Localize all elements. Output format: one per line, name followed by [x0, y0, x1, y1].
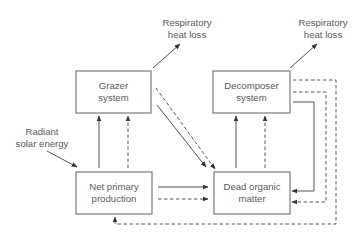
arrow-grazer-to-dom-dashed — [156, 88, 215, 169]
grazer-system-box: Grazer system — [76, 71, 151, 113]
box-label: system — [236, 92, 266, 103]
box-label: system — [98, 92, 128, 103]
label-line: Respiratory — [298, 17, 347, 28]
arrow-decomposer-to-dom-dashed — [292, 92, 326, 202]
energy-flow-diagram: Respiratory heat loss Respiratory heat l… — [0, 0, 359, 239]
label-line: heat loss — [168, 29, 207, 40]
radiant-solar-energy-label: Radiant solar energy — [16, 126, 69, 149]
box-label: Net primary — [89, 181, 139, 192]
dead-organic-matter-box: Dead organic matter — [214, 172, 290, 214]
label-line: Respiratory — [162, 17, 211, 28]
label-line: solar energy — [16, 138, 69, 149]
box-label: Decomposer — [224, 80, 279, 91]
arrow-grazer-to-heat-loss — [153, 44, 180, 68]
decomposer-system-box: Decomposer system — [213, 71, 290, 113]
respiratory-heat-loss-left-label: Respiratory heat loss — [162, 17, 211, 40]
box-label: production — [92, 193, 137, 204]
box-label: Dead organic — [223, 181, 280, 192]
respiratory-heat-loss-right-label: Respiratory heat loss — [298, 17, 347, 40]
net-primary-production-box: Net primary production — [76, 172, 152, 214]
label-line: Radiant — [25, 126, 58, 137]
arrow-grazer-to-dom-solid — [157, 105, 206, 167]
arrow-decomposer-to-heat-loss — [290, 44, 317, 68]
box-label: Grazer — [99, 80, 129, 91]
box-label: matter — [238, 193, 266, 204]
arrow-decomposer-to-dom-solid — [292, 102, 314, 191]
arrow-solar-to-npp — [47, 151, 77, 167]
label-line: heat loss — [304, 29, 343, 40]
